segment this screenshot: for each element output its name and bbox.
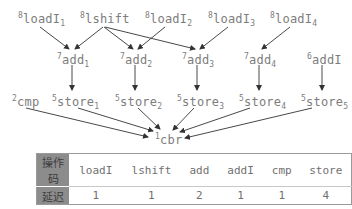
latency-cell: 1 (218, 187, 263, 205)
node-store1: 5store1 (52, 92, 99, 114)
node-store3: 5store3 (177, 92, 224, 114)
opcode-cell: cmp (263, 154, 301, 187)
opcode-cell: loadI (69, 154, 122, 187)
node-loadI3: 8loadI3 (208, 9, 255, 31)
node-add2: 7add2 (120, 50, 152, 72)
opcode-header: 操作码 (37, 154, 70, 187)
latency-header: 延迟 (37, 187, 70, 205)
latency-row: 延迟 1 1 2 1 1 4 (37, 187, 352, 205)
latency-table: 操作码 loadI lshift add addI cmp store 延迟 1… (36, 153, 352, 205)
node-addI: 6addI (307, 50, 342, 67)
latency-cell: 2 (181, 187, 219, 205)
node-add1: 7add1 (57, 50, 89, 72)
node-store2: 5store2 (115, 92, 162, 114)
node-loadI1: 8loadI1 (18, 9, 65, 31)
node-add3: 7add3 (182, 50, 214, 72)
edge-lshift-add1 (75, 27, 103, 49)
opcode-cell: add (181, 154, 219, 187)
opcode-cell: store (301, 154, 352, 187)
node-loadI4: 8loadI4 (270, 9, 317, 31)
node-lshift: 8lshift (80, 9, 130, 26)
node-store5: 5store5 (301, 92, 348, 114)
node-store4: 5store4 (239, 92, 286, 114)
node-cmp: 2cmp (12, 92, 39, 109)
node-add4: 7add4 (244, 50, 276, 72)
node-loadI2: 8loadI2 (145, 9, 192, 31)
latency-cell: 4 (301, 187, 352, 205)
node-cbr: 1cbr (155, 130, 182, 147)
latency-cell: 1 (69, 187, 122, 205)
latency-cell: 1 (263, 187, 301, 205)
opcode-row: 操作码 loadI lshift add addI cmp store (37, 154, 352, 187)
opcode-cell: lshift (122, 154, 180, 187)
opcode-cell: addI (218, 154, 263, 187)
latency-cell: 1 (122, 187, 180, 205)
